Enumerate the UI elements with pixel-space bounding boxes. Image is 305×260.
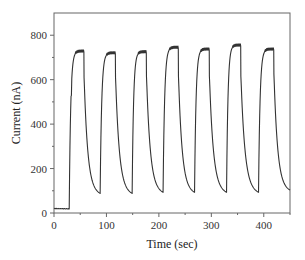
y-tick-label: 0 bbox=[42, 207, 48, 219]
y-tick-label: 800 bbox=[31, 29, 48, 41]
current-trace-line bbox=[54, 44, 290, 209]
y-axis-title: Current (nA) bbox=[9, 82, 23, 144]
y-tick-label: 400 bbox=[31, 118, 48, 130]
x-tick-label: 300 bbox=[203, 219, 220, 231]
y-axis-tick-labels: 0200400600800 bbox=[31, 29, 48, 219]
x-tick-label: 200 bbox=[151, 219, 168, 231]
x-tick-label: 0 bbox=[51, 219, 57, 231]
current-vs-time-chart: 0200400600800 0100200300400 Time (sec) C… bbox=[0, 0, 305, 260]
x-axis-tick-labels: 0100200300400 bbox=[51, 219, 272, 231]
x-tick-label: 400 bbox=[256, 219, 273, 231]
y-tick-label: 200 bbox=[31, 163, 48, 175]
x-axis-ticks bbox=[54, 213, 290, 217]
y-tick-label: 600 bbox=[31, 74, 48, 86]
x-tick-label: 100 bbox=[98, 219, 115, 231]
x-axis-title: Time (sec) bbox=[146, 237, 197, 251]
plot-frame bbox=[54, 13, 290, 213]
y-axis-ticks bbox=[50, 35, 54, 213]
